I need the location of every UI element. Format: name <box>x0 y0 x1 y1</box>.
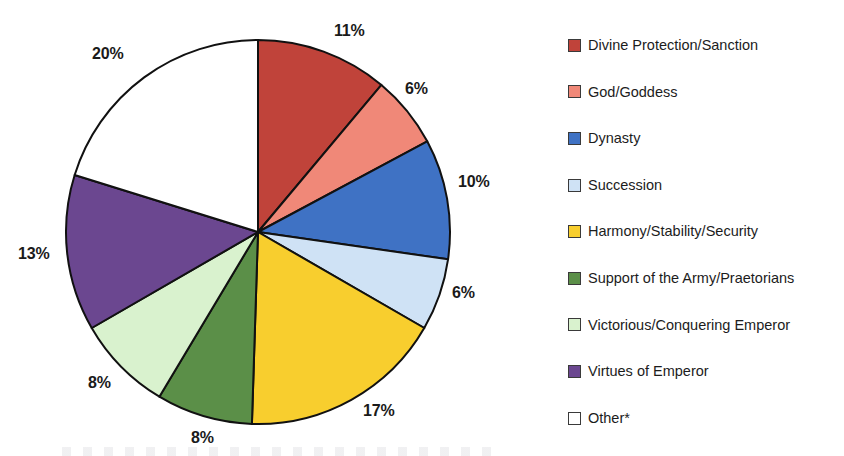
legend-color-swatch-icon <box>568 412 581 425</box>
legend-color-swatch-icon <box>568 39 581 52</box>
pie-slice-percentage-label: 8% <box>191 429 214 447</box>
legend-color-swatch-icon <box>568 225 581 238</box>
legend-color-swatch-icon <box>568 85 581 98</box>
legend-color-swatch-icon <box>568 132 581 145</box>
cropped-caption-artifact <box>62 447 492 456</box>
pie-slice-percentage-label: 8% <box>88 374 111 392</box>
legend-item: Support of the Army/Praetorians <box>568 255 844 302</box>
legend-item: Harmony/Stability/Security <box>568 208 844 255</box>
pie-chart-graphic <box>0 0 520 456</box>
legend-item: Victorious/Conquering Emperor <box>568 302 844 349</box>
legend-color-swatch-icon <box>568 272 581 285</box>
legend-color-swatch-icon <box>568 179 581 192</box>
chart-legend: Divine Protection/SanctionGod/GoddessDyn… <box>568 22 844 441</box>
pie-slice-percentage-label: 6% <box>452 284 475 302</box>
legend-item-label: Dynasty <box>588 131 640 146</box>
legend-color-swatch-icon <box>568 318 581 331</box>
legend-item: God/Goddess <box>568 69 844 116</box>
legend-item-label: Divine Protection/Sanction <box>588 38 758 53</box>
legend-item: Divine Protection/Sanction <box>568 22 844 69</box>
legend-item: Virtues of Emperor <box>568 348 844 395</box>
legend-item-label: Support of the Army/Praetorians <box>588 271 794 286</box>
legend-item: Succession <box>568 162 844 209</box>
pie-slice-percentage-label: 10% <box>458 173 489 191</box>
pie-slice-percentage-label: 13% <box>18 245 49 263</box>
legend-item: Dynasty <box>568 115 844 162</box>
pie-slice-percentage-label: 11% <box>334 22 365 40</box>
legend-item-label: Other* <box>588 411 630 426</box>
legend-item-label: Succession <box>588 178 662 193</box>
legend-item-label: Virtues of Emperor <box>588 364 709 379</box>
pie-slice-group <box>66 40 450 424</box>
legend-item-label: Harmony/Stability/Security <box>588 224 758 239</box>
legend-item-label: God/Goddess <box>588 85 677 100</box>
legend-item-label: Victorious/Conquering Emperor <box>588 318 790 333</box>
pie-slice-percentage-label: 20% <box>92 45 123 63</box>
pie-chart-figure: 11%6%10%6%17%8%8%13%20% Divine Protectio… <box>0 0 844 456</box>
pie-slice-percentage-label: 17% <box>363 402 394 420</box>
legend-item: Other* <box>568 395 844 442</box>
pie-slice-percentage-label: 6% <box>405 80 428 98</box>
legend-color-swatch-icon <box>568 365 581 378</box>
